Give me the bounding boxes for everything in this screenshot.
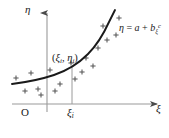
scatter-point: [28, 70, 33, 75]
scatter-point: [79, 69, 84, 74]
scatter-point: [104, 37, 109, 42]
scatter-point: [47, 67, 52, 72]
paren-close: ): [74, 52, 78, 63]
data-point-annotation: (ξi, ηi): [52, 53, 78, 65]
scatter-point: [90, 63, 95, 68]
scatter-point: [100, 23, 105, 28]
equation-exponent: c: [158, 22, 161, 29]
scatter-point: [52, 88, 57, 93]
eta-axis-label: η: [25, 4, 30, 15]
x-tick-label-xi-i: ξi: [67, 107, 74, 120]
tick-subscript: i: [72, 112, 74, 120]
scatter-point: [22, 88, 27, 93]
scatter-point: [95, 45, 100, 50]
scatter-point: [13, 75, 18, 80]
scatter-point: [113, 32, 118, 37]
xi-axis-label: ξ: [156, 103, 161, 114]
origin-label: O: [21, 107, 29, 118]
curve-equation-label: η = a + bξc: [119, 23, 161, 34]
fitted-curve: [12, 10, 115, 84]
equation-plus: +: [140, 22, 151, 33]
equation-equals: =: [124, 22, 135, 33]
scatter-point: [57, 81, 62, 86]
scatter-point: [72, 76, 77, 81]
scatter-point: [116, 15, 121, 20]
figure-container: η ξ O ξi (ξi, ηi) η = a + bξc: [0, 0, 169, 138]
scatter-point: [35, 86, 40, 91]
scatter-point: [38, 92, 43, 97]
